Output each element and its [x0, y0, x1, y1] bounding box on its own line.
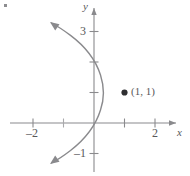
x-tick-label-minus-2: –2 — [26, 126, 38, 141]
x-tick-label-2: 2 — [152, 126, 158, 141]
y-axis-arrowhead — [91, 8, 96, 15]
y-tick-label-3: 3 — [80, 24, 86, 39]
curve-upper-left-arrowhead — [50, 22, 60, 31]
data-point-1-1 — [121, 89, 127, 95]
y-axis-label: y — [83, 0, 88, 12]
data-point-label: (1, 1) — [131, 85, 155, 97]
curve-lower-left-arrowhead — [50, 156, 60, 165]
coordinate-plot — [0, 0, 190, 176]
x-axis-label: x — [177, 126, 182, 138]
graph-figure: x y –2 2 3 –1 (1, 1) — [0, 0, 190, 176]
x-axis-arrowhead — [169, 120, 176, 126]
y-tick-label-minus-1: –1 — [74, 146, 86, 161]
